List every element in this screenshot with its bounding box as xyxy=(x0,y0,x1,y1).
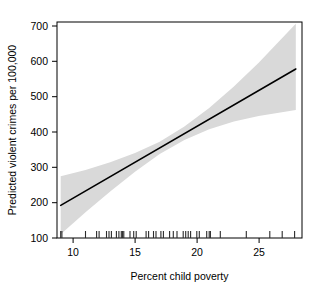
y-ticklabel-700: 700 xyxy=(30,20,48,32)
y-ticklabel-200: 200 xyxy=(30,196,48,208)
y-ticklabel-300: 300 xyxy=(30,161,48,173)
rug-marks xyxy=(61,231,295,238)
y-ticklabel-600: 600 xyxy=(30,55,48,67)
y-axis-ticklabels: 100 200 300 400 500 600 700 xyxy=(30,20,48,244)
confidence-band-group xyxy=(61,24,296,235)
y-ticklabel-100: 100 xyxy=(30,232,48,244)
fitted-regression-line xyxy=(61,69,296,205)
y-ticklabel-400: 400 xyxy=(30,126,48,138)
x-ticklabel-10: 10 xyxy=(67,246,79,258)
x-ticklabel-15: 15 xyxy=(129,246,141,258)
x-ticklabel-20: 20 xyxy=(191,246,203,258)
x-axis-ticks xyxy=(73,238,259,243)
y-ticklabel-500: 500 xyxy=(30,90,48,102)
x-axis-ticklabels: 10 15 20 25 xyxy=(67,246,265,258)
confidence-band xyxy=(61,24,296,235)
x-axis-title: Percent child poverty xyxy=(130,270,229,282)
y-axis-title: Predicted violent crimes per 100,000 xyxy=(6,45,18,216)
x-ticklabel-25: 25 xyxy=(253,246,265,258)
chart-figure: 100 200 300 400 500 600 700 10 15 20 25 … xyxy=(0,0,321,296)
regression-plot: 100 200 300 400 500 600 700 10 15 20 25 … xyxy=(0,0,321,296)
y-axis-ticks xyxy=(52,26,57,238)
